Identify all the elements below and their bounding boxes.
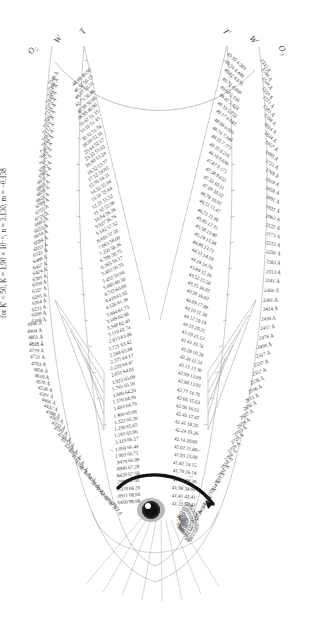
left-lens-ribs	[62, 315, 104, 415]
nomogram-figure: O2 W T T′ W′ O3 for K' < 50, K = 1.90 × …	[0, 0, 311, 642]
scale-tick-label: 2436 Å	[261, 314, 276, 321]
scale-tick-label: 2391 Å	[263, 296, 278, 302]
eye-highlight	[145, 503, 151, 509]
left-lens	[55, 300, 104, 430]
scale-tick-label: 4861 Å	[28, 334, 43, 341]
bottom-spokes	[86, 519, 219, 602]
scale-tick-label: 2313 Å	[265, 268, 280, 275]
scale-tick-label: 2414 Å	[262, 305, 277, 312]
right-lens-ribs	[208, 315, 249, 415]
scale-tick-label: 2366 Å	[264, 287, 279, 293]
scale-tick-label: 4818 Å	[29, 341, 44, 347]
scale-tick-label: 2341 Å	[265, 277, 280, 284]
eye-pivot-icon	[137, 498, 165, 522]
figure-caption: for K' < 50, K = 1.90 × 10⁻⁶, n = 3.130,…	[0, 68, 8, 318]
